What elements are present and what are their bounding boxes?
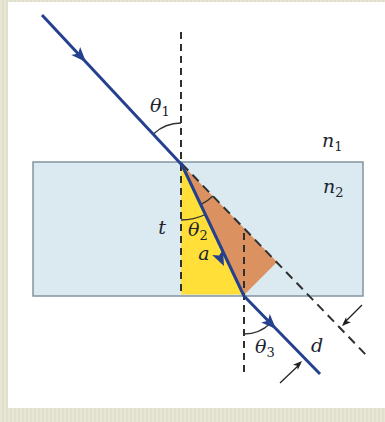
displacement-lower-arrow bbox=[280, 364, 300, 383]
theta3-label: θ3 bbox=[255, 335, 275, 360]
displacement-label: d bbox=[311, 334, 323, 356]
theta1-angle-arc bbox=[154, 123, 181, 134]
theta3-angle-arc bbox=[244, 323, 271, 334]
path-length-label: a bbox=[198, 242, 209, 264]
displacement-lower-arrow-icon bbox=[293, 358, 304, 369]
theta1-label: θ1 bbox=[150, 94, 170, 119]
displacement-upper-arrow-icon bbox=[340, 317, 351, 328]
n1-label: n1 bbox=[322, 129, 343, 154]
thickness-label: t bbox=[158, 216, 166, 238]
refraction-diagram: incident θ1 n1 n2 t θ2 a θ3 d bbox=[0, 0, 385, 422]
incident-ray bbox=[42, 15, 181, 164]
